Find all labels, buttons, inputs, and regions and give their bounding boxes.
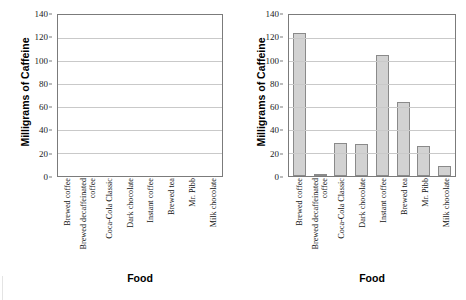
gridline [289, 61, 455, 62]
bar[interactable] [293, 33, 306, 176]
x-tick-label: Coca-Cola Classic [104, 178, 113, 264]
bar-slot [393, 15, 414, 176]
x-tick-slot: Brewed coffee [288, 178, 309, 266]
bar[interactable] [376, 55, 389, 176]
bar-slot [202, 15, 223, 176]
y-tick-label: 60 [39, 102, 48, 112]
cropped-footer-text [16, 289, 18, 299]
x-tick-label: Brewed tea [399, 178, 408, 264]
x-tick-slot: Mr. Pibb [414, 178, 435, 266]
y-tick-mark [49, 83, 52, 84]
y-axis-tick-labels-left: 020406080100120140 [18, 14, 52, 177]
x-tick-slot: Dark chocolate [351, 178, 372, 266]
x-tick-slot: Coca-Cola Classic [99, 178, 120, 266]
gridline [289, 130, 455, 131]
bar[interactable] [314, 174, 327, 176]
y-tick-mark [280, 14, 283, 15]
bar-group-right [289, 15, 455, 176]
plot-area-left [57, 14, 223, 177]
y-tick-mark [280, 37, 283, 38]
y-tick-mark [49, 107, 52, 108]
x-tick-slot: Instant coffee [372, 178, 393, 266]
x-tick-label: Instant coffee [378, 178, 387, 264]
y-tick-label: 140 [266, 9, 280, 19]
y-axis-tick-labels-right: 020406080100120140 [249, 14, 283, 177]
x-tick-slot: Brewed coffee [57, 178, 78, 266]
x-tick-slot: Brewed decaffeinated coffee [309, 178, 330, 266]
x-tick-slot: Dark chocolate [119, 178, 140, 266]
bar-slot [414, 15, 435, 176]
bar[interactable] [417, 146, 430, 176]
bar-slot [310, 15, 331, 176]
chart-empty-axes: Milligrams of Caffeine 02040608010012014… [0, 0, 233, 300]
bar[interactable] [438, 166, 451, 176]
gridline [58, 38, 222, 39]
gridline [289, 153, 455, 154]
x-tick-label: Brewed tea [167, 178, 176, 264]
x-tick-label: Mr. Pibb [420, 178, 429, 264]
gridline [58, 84, 222, 85]
x-axis-title-left: Food [57, 272, 223, 284]
y-tick-label: 80 [39, 79, 48, 89]
gridline [289, 38, 455, 39]
bar-slot [140, 15, 161, 176]
y-tick-mark [49, 14, 52, 15]
y-tick-mark [280, 153, 283, 154]
bar-slot [79, 15, 100, 176]
y-tick-label: 0 [275, 172, 280, 182]
y-tick-label: 40 [270, 125, 279, 135]
x-tick-slot: Milk chocolate [202, 178, 223, 266]
x-tick-label: Dark chocolate [357, 178, 366, 264]
y-tick-label: 120 [266, 32, 280, 42]
y-tick-mark [49, 60, 52, 61]
bar-slot [161, 15, 182, 176]
figure-page: Milligrams of Caffeine 02040608010012014… [0, 0, 466, 300]
y-tick-mark [280, 60, 283, 61]
bar[interactable] [355, 144, 368, 176]
x-tick-slot: Coca-Cola Classic [330, 178, 351, 266]
x-tick-label: Brewed decaffeinated coffee [79, 178, 97, 264]
bar-slot [289, 15, 310, 176]
bar[interactable] [397, 102, 410, 176]
y-tick-label: 100 [266, 56, 280, 66]
x-tick-label: Mr. Pibb [187, 178, 196, 264]
x-tick-label: Coca-Cola Classic [336, 178, 345, 264]
y-tick-mark [49, 153, 52, 154]
bar-slot [120, 15, 141, 176]
x-tick-label: Milk chocolate [441, 178, 450, 264]
x-tick-label: Instant coffee [146, 178, 155, 264]
y-tick-mark [49, 37, 52, 38]
bar-slot [58, 15, 79, 176]
y-tick-mark [49, 177, 52, 178]
y-tick-label: 60 [270, 102, 279, 112]
x-axis-tick-labels-left: Brewed coffeeBrewed decaffeinated coffee… [57, 178, 223, 266]
bar[interactable] [334, 143, 347, 176]
chart-caffeine-bars: Milligrams of Caffeine 02040608010012014… [233, 0, 466, 300]
x-tick-slot: Milk chocolate [435, 178, 456, 266]
bar-slot [99, 15, 120, 176]
y-tick-label: 20 [270, 149, 279, 159]
y-tick-label: 40 [39, 125, 48, 135]
x-tick-slot: Mr. Pibb [182, 178, 203, 266]
x-tick-slot: Brewed decaffeinated coffee [78, 178, 99, 266]
y-tick-label: 80 [270, 79, 279, 89]
x-tick-label: Brewed coffee [63, 178, 72, 264]
bar-slot [181, 15, 202, 176]
gridline [58, 107, 222, 108]
page-edge-line [2, 276, 3, 300]
y-tick-label: 0 [44, 172, 49, 182]
plot-area-right [288, 14, 456, 177]
y-tick-mark [280, 130, 283, 131]
x-tick-label: Brewed decaffeinated coffee [311, 178, 329, 264]
y-tick-label: 20 [39, 149, 48, 159]
x-axis-title-right: Food [288, 272, 456, 284]
x-tick-slot: Brewed tea [161, 178, 182, 266]
x-tick-label: Dark chocolate [125, 178, 134, 264]
bar-slot [434, 15, 455, 176]
x-tick-label: Brewed coffee [294, 178, 303, 264]
y-tick-label: 140 [35, 9, 49, 19]
x-tick-slot: Brewed tea [393, 178, 414, 266]
gridline [289, 84, 455, 85]
x-tick-label: Milk chocolate [208, 178, 217, 264]
y-tick-mark [49, 130, 52, 131]
